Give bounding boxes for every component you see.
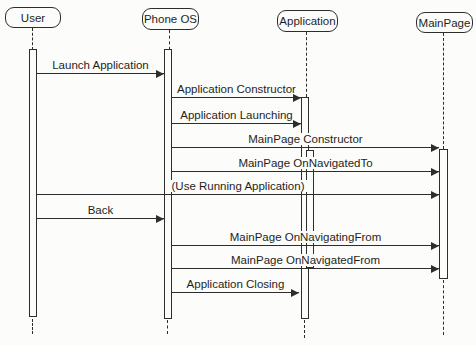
lifeline-dash-phone-os-tail (167, 320, 168, 334)
lifeline-head-mainpage: MainPage (416, 12, 473, 33)
message-label: Back (37, 204, 164, 217)
message-back: Back (37, 218, 164, 219)
lifeline-name-application: Application (279, 15, 335, 27)
message-label: Launch Application (37, 59, 164, 72)
lifeline-name-mainpage: MainPage (419, 17, 471, 29)
message-label: Application Closing (172, 278, 299, 291)
lifeline-head-user: User (5, 7, 61, 28)
lifeline-dash-mainpage-tail (443, 280, 444, 335)
arrowhead-icon (431, 242, 439, 250)
message-use-running-application: (Use Running Application) (37, 194, 439, 195)
message-mainpage-onnavigatedfrom: MainPage OnNavigatedFrom (172, 268, 439, 269)
message-label: MainPage Constructor (172, 133, 439, 146)
message-label: MainPage OnNavigatedFrom (172, 254, 439, 267)
message-application-constructor: Application Constructor (172, 97, 301, 98)
arrowhead-icon (156, 70, 164, 78)
lifeline-dash-mainpage-top (443, 33, 444, 149)
message-mainpage-onnavigatingfrom: MainPage OnNavigatingFrom (172, 245, 439, 246)
arrowhead-icon (156, 215, 164, 223)
message-label: MainPage OnNavigatingFrom (172, 231, 439, 244)
arrowhead-icon (293, 120, 301, 128)
lifeline-dash-application-tail (304, 320, 305, 338)
lifeline-dash-application-top (306, 32, 307, 97)
lifeline-name-user: User (21, 12, 45, 24)
arrowhead-icon (431, 168, 439, 176)
message-mainpage-onnavigatedto: MainPage OnNavigatedTo (172, 171, 439, 172)
arrowhead-icon (293, 94, 301, 102)
sequence-diagram: User Phone OS Application MainPage Launc… (0, 0, 476, 345)
lifeline-dash-user-top (32, 28, 33, 50)
message-label: Application Constructor (172, 83, 301, 96)
message-label: (Use Running Application) (37, 180, 439, 193)
arrowhead-icon (291, 289, 299, 297)
lifeline-head-phone-os: Phone OS (142, 8, 199, 30)
lifeline-name-phone-os: Phone OS (144, 13, 197, 25)
arrowhead-icon (431, 144, 439, 152)
arrowhead-icon (431, 265, 439, 273)
message-mainpage-constructor: MainPage Constructor (172, 147, 439, 148)
lifeline-dash-phone-os-top (169, 30, 170, 50)
message-launch-application: Launch Application (37, 73, 164, 74)
lifeline-head-application: Application (277, 10, 338, 32)
message-application-launching: Application Launching (172, 123, 301, 124)
arrowhead-icon (431, 191, 439, 199)
message-application-closing: Application Closing (172, 292, 299, 293)
activation-bar-mainpage (439, 149, 448, 279)
message-label: Application Launching (172, 109, 301, 122)
message-label: MainPage OnNavigatedTo (172, 157, 439, 170)
lifeline-dash-user-tail (32, 319, 33, 334)
activation-bar-user (29, 49, 37, 317)
